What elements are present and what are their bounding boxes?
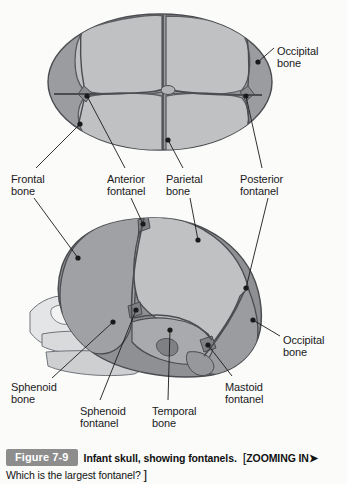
figure-container: OccipitalboneFrontalboneAnteriorfontanel…: [0, 0, 347, 484]
parietal-bone-left-inferior: [78, 93, 162, 150]
zooming-in-label: ZOOMING IN: [246, 452, 309, 464]
label-occipital-bone-top: Occipitalbone: [277, 46, 318, 69]
label-line-1: Temporal: [152, 406, 196, 418]
parietal-bone-right-inferior: [166, 93, 249, 150]
label-line-1: Mastoid: [225, 382, 263, 394]
label-occipital-bone-bottom: Occipitalbone: [283, 335, 324, 358]
label-frontal-bone: Frontalbone: [11, 174, 45, 197]
label-line-2: bone: [283, 347, 324, 359]
figure-number-badge: Figure 7-9: [6, 449, 78, 466]
label-posterior-fontanel: Posteriorfontanel: [240, 174, 283, 197]
label-parietal-bone: Parietalbone: [166, 174, 203, 197]
label-line-2: bone: [11, 186, 45, 198]
figure-caption: Figure 7-9 Infant skull, showing fontane…: [0, 447, 347, 484]
label-line-1: Occipital: [283, 335, 324, 347]
label-line-2: bone: [11, 394, 57, 406]
figure-title: Infant skull, showing fontanels.: [84, 452, 237, 464]
label-temporal-bone: Temporalbone: [152, 406, 196, 429]
label-sphenoid-bone: Sphenoidbone: [11, 382, 57, 405]
parietal-bone-left-superior: [75, 15, 162, 94]
arrow-icon: ➤: [309, 452, 318, 464]
zooming-in-prompt: [ZOOMING IN➤: [243, 450, 318, 465]
label-line-2: bone: [166, 186, 203, 198]
label-line-1: Parietal: [166, 174, 203, 186]
label-mastoid-fontanel: Mastoidfontanel: [225, 382, 263, 405]
close-bracket-glyph: ]: [144, 467, 148, 482]
label-line-1: Frontal: [11, 174, 45, 186]
sutural-ossicle: [161, 86, 175, 95]
label-anterior-fontanel: Anteriorfontanel: [107, 174, 145, 197]
label-line-2: bone: [152, 418, 196, 430]
label-line-2: bone: [277, 58, 318, 70]
parietal-bone-right-superior: [166, 16, 250, 95]
label-line-1: Sphenoid: [80, 406, 126, 418]
label-sphenoid-fontanel: Sphenoidfontanel: [80, 406, 126, 429]
label-line-2: fontanel: [80, 418, 126, 430]
figure-question-line: Which is the largest fontanel? ]: [6, 467, 147, 482]
lateral-view: [30, 198, 280, 400]
label-line-1: Sphenoid: [11, 382, 57, 394]
label-line-1: Anterior: [107, 174, 145, 186]
label-line-2: fontanel: [225, 394, 263, 406]
label-line-2: fontanel: [240, 186, 283, 198]
superior-view: [36, 14, 274, 168]
label-line-1: Posterior: [240, 174, 283, 186]
label-line-2: fontanel: [107, 186, 145, 198]
label-line-1: Occipital: [277, 46, 318, 58]
figure-question: Which is the largest fontanel?: [6, 469, 141, 481]
